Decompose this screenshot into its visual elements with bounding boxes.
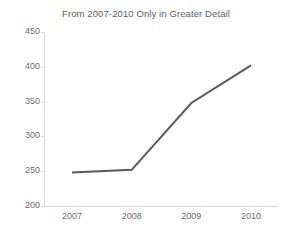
series-layer — [0, 0, 292, 242]
data-line-series-1 — [72, 65, 251, 172]
line-chart: From 2007-2010 Only in Greater Detail 20… — [0, 0, 292, 242]
